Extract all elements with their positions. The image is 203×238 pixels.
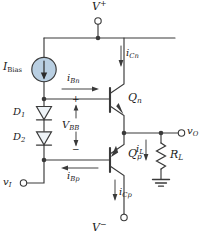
label-vplus: V+: [92, 1, 107, 12]
vminus-rail: [121, 214, 127, 221]
label-ibn: iBn: [67, 73, 80, 83]
label-icp: iCp: [119, 187, 132, 197]
transistor-qn: [110, 38, 124, 133]
load-branch: [153, 131, 170, 187]
il-arrow-head: [144, 154, 149, 161]
il-arrow: [144, 140, 149, 161]
label-icn-sub: Cn: [129, 52, 139, 60]
label-il: iL: [136, 144, 144, 154]
label-vbb-plus: +: [72, 95, 80, 104]
label-ibp: iBp: [67, 171, 80, 181]
label-vplus-main: V: [92, 0, 100, 13]
vo-terminal-circle: [178, 130, 184, 136]
label-vi-sub: I: [9, 181, 12, 189]
icp-arrow: [113, 180, 118, 201]
qn-emitter-lead: [110, 106, 124, 133]
label-ibp-sub: Bp: [70, 175, 79, 183]
label-icp-sub: Cp: [122, 191, 132, 199]
label-vo-main: v: [187, 125, 193, 136]
transistor-qp: [110, 133, 124, 214]
label-icn: iCn: [126, 48, 139, 58]
label-d1: D1: [13, 107, 25, 117]
label-rl-sub: L: [178, 153, 183, 162]
label-vbb: VBB: [62, 120, 79, 130]
rl-zigzag: [157, 143, 166, 169]
label-d1-sub: 1: [21, 111, 25, 119]
label-qn-sub: n: [137, 96, 142, 105]
ibn-arrow-head: [92, 87, 99, 92]
label-d1-main: D: [13, 106, 21, 117]
qn-collector-lead: [110, 38, 124, 94]
label-vminus-sup: −: [100, 220, 107, 229]
label-vbb-minus: −: [72, 145, 80, 154]
ibn-arrow: [62, 87, 99, 92]
circuit-schematic-canvas: [0, 0, 203, 238]
label-ibias: IBias: [3, 61, 22, 72]
icn-arrow-head: [119, 60, 124, 67]
label-d2: D2: [13, 132, 25, 142]
vplus-junction-dot: [96, 36, 101, 41]
label-vi: vI: [3, 177, 11, 187]
vi-terminal-circle: [20, 180, 26, 186]
icn-arrow: [119, 46, 124, 67]
vminus-terminal-circle: [121, 214, 127, 220]
label-il-sub: L: [139, 148, 144, 156]
label-vo-sub: O: [193, 130, 199, 138]
diode-d1-triangle: [37, 107, 52, 120]
label-vminus-main: V: [92, 221, 100, 234]
output-node: [122, 130, 185, 136]
label-rl: RL: [170, 149, 183, 160]
diode-chain: [37, 99, 52, 160]
vi-lead: [27, 160, 44, 183]
vplus-terminal-circle: [95, 18, 101, 24]
icp-arrow-head: [113, 194, 118, 201]
label-qn-main: Q: [128, 91, 137, 104]
label-vbb-sub: BB: [69, 124, 79, 132]
label-qn: Qn: [128, 92, 142, 103]
input-branch: [20, 160, 44, 186]
label-vi-main: v: [3, 176, 9, 187]
circuit-diagram: V+ IBias iBn iCn Qn Qp D1 D2 VBB + − iBp…: [0, 0, 203, 238]
bias-branch: [32, 38, 56, 99]
label-d2-main: D: [13, 131, 21, 142]
label-vminus: V−: [92, 222, 107, 233]
vplus-rail: [44, 18, 175, 41]
diode-d2-triangle: [37, 132, 52, 145]
label-vo: vO: [187, 126, 198, 136]
label-vplus-sup: +: [100, 0, 107, 8]
label-ibias-sub: Bias: [7, 66, 22, 74]
qp-emitter-arrow: [111, 146, 118, 157]
lower-bias-node: [42, 158, 110, 163]
label-ibn-sub: Bn: [70, 77, 79, 85]
vbb-arrow-up-head: [74, 105, 79, 111]
label-d2-sub: 2: [21, 136, 25, 144]
